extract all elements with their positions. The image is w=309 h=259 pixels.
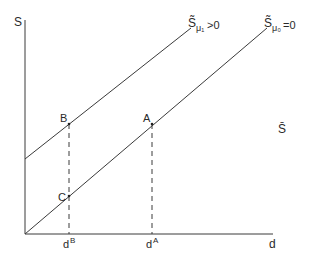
curve-mu1-cond: >0 bbox=[207, 19, 220, 31]
point-A-marker bbox=[151, 123, 154, 126]
curve-mu0-cond: =0 bbox=[283, 19, 296, 31]
tick-dB-base: d bbox=[63, 238, 69, 250]
curve-mu1 bbox=[25, 28, 191, 159]
diagram-canvas: S d B A C S̄ S̃ μ₁ >0 S̃ μ₀ =0 d B d A bbox=[0, 0, 309, 259]
point-B-marker bbox=[68, 123, 71, 126]
x-axis-label: d bbox=[269, 237, 276, 251]
curve-mu0-sub: μ₀ bbox=[272, 23, 281, 33]
curve-mu1-label: S̃ μ₁ >0 bbox=[188, 15, 220, 33]
tick-dB-sup: B bbox=[70, 236, 75, 245]
tick-dB: d B bbox=[63, 236, 75, 250]
curve-mu1-sub: μ₁ bbox=[196, 23, 204, 33]
point-C-marker bbox=[68, 195, 71, 198]
point-B-label: B bbox=[60, 112, 67, 124]
curve-mu0-label: S̃ μ₀ =0 bbox=[264, 15, 296, 33]
s-bar-label: S̄ bbox=[278, 122, 286, 136]
tick-dA-base: d bbox=[146, 238, 152, 250]
y-axis-label: S bbox=[14, 15, 22, 29]
curve-mu0 bbox=[25, 28, 267, 234]
curve-mu1-base: S̃ bbox=[188, 15, 196, 30]
point-C-label: C bbox=[58, 191, 66, 203]
curve-mu0-base: S̃ bbox=[264, 15, 272, 30]
point-A-label: A bbox=[143, 112, 151, 124]
tick-dA: d A bbox=[146, 236, 159, 250]
tick-dA-sup: A bbox=[153, 236, 159, 245]
